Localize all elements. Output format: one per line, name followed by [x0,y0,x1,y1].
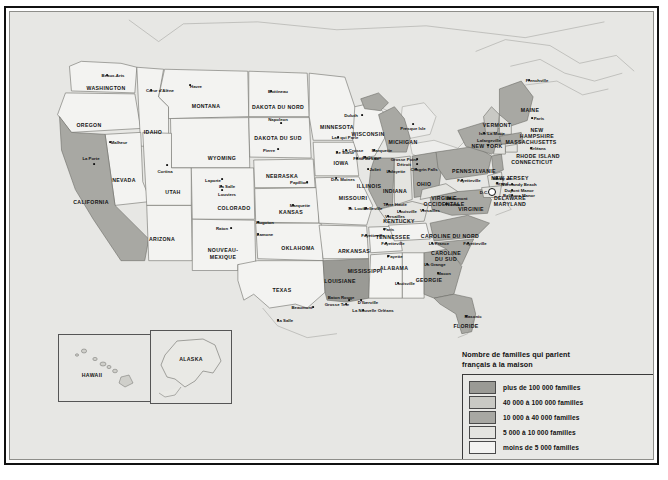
state-label: NEBRASKA [266,173,298,179]
city-label: Fayetteville [457,178,480,183]
legend-swatch [469,411,496,424]
city-label: Louviers [218,192,236,197]
city-dot-icon [487,144,489,146]
city-label: Cœur d'Alène [146,88,174,93]
city-label: La Grange [424,262,445,267]
city-label: Lamone [257,232,273,237]
state-label: OHIO [417,181,432,187]
map-page: .s { stroke:#6d6d68; stroke-width:.6; } … [0,0,668,480]
inset-alaska: ALASKA [150,330,232,404]
legend-label: 5 000 à 10 000 familles [503,429,576,436]
state-label: VERMONT [483,122,511,128]
legend-swatch [469,381,496,394]
city-label: La Nouvelle Orléans [352,308,393,313]
city-label: Bottineau [268,89,288,94]
state-label: MINNESOTA [320,124,354,130]
city-label: La Salle [219,184,235,189]
legend-row: 5 000 à 10 000 familles [469,425,651,439]
state-label: MISSOURI [339,195,367,201]
city-label: Baton Rouge [328,295,355,300]
city-label: Versailles [385,214,405,219]
state-label: DAKOTA DU SUD [254,135,302,141]
city-label: La France [429,241,449,246]
city-label: Joliet [369,167,380,172]
state-label: MONTANA [192,103,221,109]
city-label: Beaumont [291,305,312,310]
state-label: WYOMING [208,155,236,161]
city-dot-icon [221,178,223,180]
city-label: Hugoton [256,220,274,225]
state-label: ALABAMA [380,265,409,271]
state-label: IDAHO [144,129,162,135]
legend-row: moins de 5 000 familles [469,440,651,454]
city-label: Pierre [263,148,275,153]
state-label: MICHIGAN [388,139,417,145]
city-label: Des Moines [331,177,355,182]
city-label: Orléans [530,146,546,151]
legend-label: plus de 100 000 familles [503,384,581,391]
state-label: NOUVEAU- [208,247,238,253]
city-label: Payette [387,254,402,259]
city-label: Paris [534,116,545,121]
city-label: Beaux-Arts [102,73,125,78]
legend-label: moins de 5 000 familles [503,444,579,451]
state-label: ARIZONA [149,236,175,242]
state-label: TEXAS [272,287,291,293]
state-label: IOWA [333,160,348,166]
state-label: KANSAS [279,209,303,215]
city-label: Napoleon [268,117,288,122]
state-label: CAROLINE DU NORD [421,233,479,239]
state-label: MAINE [521,107,539,113]
city-label: Laporte [205,178,221,183]
city-dot-icon [277,148,279,150]
state-label: FLORIDE [453,323,478,329]
city-label: Raton [216,226,228,231]
city-label: Lafayette [387,169,406,174]
legend-swatch [469,441,496,454]
state-label: LOUISIANE [324,278,355,284]
dc-marker-icon [488,188,496,196]
inset-label-alaska: ALASKA [179,356,203,362]
city-label: Papillion [290,180,308,185]
city-dot-icon [230,227,232,229]
city-label: Havre [190,84,202,89]
map-plate: .s { stroke:#6d6d68; stroke-width:.6; } … [9,11,654,460]
city-label: Presque Isle [400,126,425,131]
city-label: La Porte [82,156,99,161]
city-label: Bellevue Manor [503,193,535,198]
state-label: GEORGIE [416,277,443,283]
state-label: CALIFORNIA [73,199,109,205]
city-dot-icon [93,163,95,165]
legend-label: 10 000 à 40 000 familles [503,414,579,421]
city-label: Détroit [397,162,411,167]
legend-title-line2: français à la maison [462,360,654,370]
legend: Nombre de familles qui parlent français … [462,350,654,460]
state-label: MISSISSIPPI [348,268,383,274]
legend-swatch [469,396,496,409]
city-label: Malheur [111,140,127,145]
state-label: PENNSYLVANIE [452,168,496,174]
inset-hawaii: HAWAII [58,334,157,402]
state-label: NEVADA [112,177,136,183]
city-label: Beaumont [446,196,467,201]
city-label: Frenchville [526,78,549,83]
state-label: MASSACHUSETTS [505,139,556,145]
state-label: OREGON [76,122,101,128]
city-dot-icon [416,163,418,165]
legend-row: plus de 100 000 familles [469,380,651,394]
city-label: Lac qui Parle [332,135,359,140]
state-label: MARYLAND [494,201,526,207]
city-label: Fond du Lac [353,156,379,161]
city-dot-icon [361,114,363,116]
state-label: UTAH [165,189,180,195]
legend-label: 40 000 à 100 000 familles [503,399,583,406]
city-label: Grand [496,181,509,186]
state-label: MEXIQUE [210,254,236,260]
city-label: Louisville [395,281,415,286]
city-label: Terre Haute [383,202,407,207]
legend-title: Nombre de familles qui parlent français … [462,350,654,369]
city-dot-icon [280,122,282,124]
city-dot-icon [531,117,533,119]
state-label: KENTUCKY [383,218,415,224]
city-label: Paris [384,227,395,232]
